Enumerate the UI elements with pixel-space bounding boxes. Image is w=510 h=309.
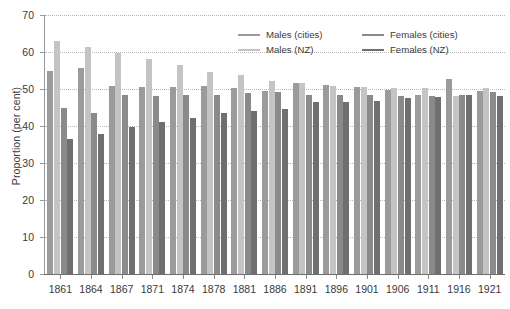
y-tick-label: 0 [28,268,34,280]
bar [159,122,165,274]
y-tick-mark [40,52,44,53]
y-tick-label: 40 [22,120,34,132]
bar [109,86,115,274]
bar [435,97,441,274]
bar [282,109,288,274]
bar [422,88,428,274]
bar [146,59,152,274]
bar [330,86,336,274]
y-tick-mark [40,200,44,201]
bar [207,72,213,274]
bar [190,118,196,275]
y-tick-label: 60 [22,46,34,58]
bar [354,87,360,274]
bar [313,102,319,274]
legend-item-males-nz: Males (NZ) [238,45,362,55]
x-tick-mark [306,275,307,279]
bar [91,113,97,274]
bar [122,95,128,274]
bar [183,95,189,274]
bar [446,79,452,274]
legend-row: Males (NZ) Females (NZ) [238,42,488,57]
bar [245,93,251,274]
x-tick-mark [367,275,368,279]
x-tick-mark [275,275,276,279]
x-tick-mark [459,275,460,279]
bar [201,86,207,274]
legend-row: Males (cities) Females (cities) [238,27,488,42]
bar [275,92,281,274]
x-tick-label: 1871 [141,283,164,295]
y-tick-mark [40,126,44,127]
x-tick-mark [214,275,215,279]
x-tick-label: 1861 [49,283,72,295]
bar [214,95,220,274]
bar [466,95,472,274]
bar [115,53,121,274]
legend-item-females-cities: Females (cities) [362,30,458,40]
x-tick-label: 1911 [417,283,440,295]
y-tick-label: 70 [22,9,34,21]
x-tick-mark [91,275,92,279]
bar [415,95,421,274]
x-tick-label: 1886 [263,283,286,295]
y-tick-mark [40,15,44,16]
legend-label-males-nz: Males (NZ) [266,45,313,55]
bar [293,83,299,274]
bar [497,96,503,274]
bar [129,127,135,274]
bar [61,108,67,274]
bar [238,75,244,274]
y-tick-label: 30 [22,157,34,169]
x-tick-mark [428,275,429,279]
legend-label-males-cities: Males (cities) [266,30,323,40]
x-tick-label: 1916 [447,283,470,295]
bar [47,71,53,274]
bar-group [139,15,165,274]
legend-swatch-males-nz [238,49,260,51]
legend-swatch-females-cities [362,34,384,36]
bar [367,95,373,274]
legend-swatch-females-nz [362,49,384,51]
y-tick-mark [40,89,44,90]
bar [269,81,275,274]
bar [374,101,380,274]
x-tick-label: 1874 [171,283,194,295]
bar [221,113,227,274]
bar [170,87,176,274]
bar [385,90,391,274]
x-tick-label: 1896 [325,283,348,295]
legend-item-females-nz: Females (NZ) [362,45,449,55]
bar [139,87,145,274]
x-tick-label: 1891 [294,283,317,295]
bar [54,41,60,274]
bar-chart: 010203040506070 Proportion (per cent) Ma… [0,0,510,309]
x-tick-mark [152,275,153,279]
bar [262,91,268,274]
x-tick-mark [398,275,399,279]
bar [477,91,483,274]
bar [231,88,237,274]
bar [85,47,91,274]
x-tick-mark [60,275,61,279]
bar-group [47,15,73,274]
bar-group [170,15,196,274]
bar-group [201,15,227,274]
x-tick-label: 1881 [233,283,256,295]
bar [98,134,104,274]
bar [78,68,84,274]
y-tick-mark [40,237,44,238]
x-tick-label: 1867 [110,283,133,295]
bar [398,96,404,274]
x-tick-mark [122,275,123,279]
bar [67,139,73,274]
x-tick-mark [336,275,337,279]
x-tick-mark [183,275,184,279]
bar [153,96,159,274]
legend-label-females-nz: Females (NZ) [390,45,449,55]
bar [177,65,183,274]
bar-group [109,15,135,274]
y-tick-label: 10 [22,231,34,243]
bar [306,95,312,274]
bar [323,85,329,274]
